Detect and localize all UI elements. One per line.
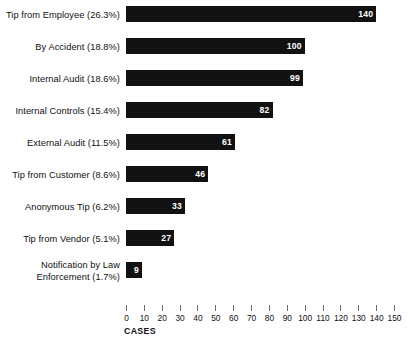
x-axis-tick-label: 150 (388, 313, 402, 323)
x-axis-tick (305, 305, 306, 311)
bar-value-label: 140 (358, 6, 373, 22)
bar: 27 (126, 230, 174, 246)
bar-row: Tip from Customer (8.6%)46 (0, 166, 407, 198)
bar-row: Notification by Law Enforcement (1.7%)9 (0, 262, 407, 294)
bar-value-label: 100 (287, 38, 302, 54)
x-axis-title: CASES (124, 326, 156, 336)
x-axis-tick-label: 90 (283, 313, 292, 323)
bar-category-label: Notification by Law Enforcement (1.7%) (0, 260, 120, 283)
bar-category-label: Anonymous Tip (6.2%) (0, 202, 120, 214)
bar-row: External Audit (11.5%)61 (0, 134, 407, 166)
x-axis-tick (197, 305, 198, 311)
x-axis-tick (376, 305, 377, 311)
bar-row: Tip from Employee (26.3%)140 (0, 6, 407, 38)
x-axis-tick (215, 305, 216, 311)
bar: 82 (126, 102, 273, 118)
x-axis-tick (358, 305, 359, 311)
x-axis-tick-label: 40 (193, 313, 202, 323)
x-axis-tick-label: 50 (211, 313, 220, 323)
bar-category-label: Tip from Employee (26.3%) (0, 10, 120, 22)
x-axis-tick (144, 305, 145, 311)
bar-value-label: 61 (222, 134, 232, 150)
x-axis-tick-label: 80 (265, 313, 274, 323)
x-axis-tick (269, 305, 270, 311)
bar-value-label: 82 (260, 102, 270, 118)
x-axis-tick (126, 305, 127, 311)
bar-value-label: 9 (134, 262, 139, 278)
bar-value-label: 27 (161, 230, 171, 246)
bar: 33 (126, 198, 185, 214)
bar: 100 (126, 38, 305, 54)
x-axis-tick (340, 305, 341, 311)
bar: 9 (126, 262, 142, 278)
x-axis-tick (287, 305, 288, 311)
x-axis-tick (233, 305, 234, 311)
x-axis-tick (180, 305, 181, 311)
bar-row: By Accident (18.8%)100 (0, 38, 407, 70)
bar-chart: Tip from Employee (26.3%)140By Accident … (0, 0, 407, 352)
bar-value-label: 46 (195, 166, 205, 182)
bar-value-label: 99 (290, 70, 300, 86)
bar: 46 (126, 166, 208, 182)
x-axis-tick-label: 10 (140, 313, 149, 323)
x-axis-tick-label: 30 (175, 313, 184, 323)
x-axis-tick-label: 60 (229, 313, 238, 323)
x-axis-tick (162, 305, 163, 311)
bar-category-label: External Audit (11.5%) (0, 138, 120, 150)
bar-category-label: Internal Audit (18.6%) (0, 74, 120, 86)
x-axis: CASES 0102030405060708090100110120130140… (0, 305, 407, 352)
bar: 99 (126, 70, 303, 86)
bar-value-label: 33 (172, 198, 182, 214)
bar-row: Internal Controls (15.4%)82 (0, 102, 407, 134)
bar: 61 (126, 134, 235, 150)
x-axis-tick-label: 0 (124, 313, 129, 323)
x-axis-tick (251, 305, 252, 311)
bar-category-label: Internal Controls (15.4%) (0, 106, 120, 118)
bar-row: Internal Audit (18.6%)99 (0, 70, 407, 102)
bar: 140 (126, 6, 376, 22)
x-axis-tick-label: 120 (334, 313, 348, 323)
x-axis-tick-label: 130 (352, 313, 366, 323)
bar-category-label: By Accident (18.8%) (0, 42, 120, 54)
bar-category-label: Tip from Customer (8.6%) (0, 170, 120, 182)
x-axis-tick (394, 305, 395, 311)
x-axis-tick-label: 110 (316, 313, 329, 323)
x-axis-tick-label: 20 (158, 313, 167, 323)
x-axis-tick-label: 100 (298, 313, 312, 323)
bar-row: Anonymous Tip (6.2%)33 (0, 198, 407, 230)
bar-category-label: Tip from Vendor (5.1%) (0, 234, 120, 246)
bar-row: Tip from Vendor (5.1%)27 (0, 230, 407, 262)
x-axis-tick-label: 70 (247, 313, 256, 323)
x-axis-tick (323, 305, 324, 311)
x-axis-tick-label: 140 (370, 313, 384, 323)
